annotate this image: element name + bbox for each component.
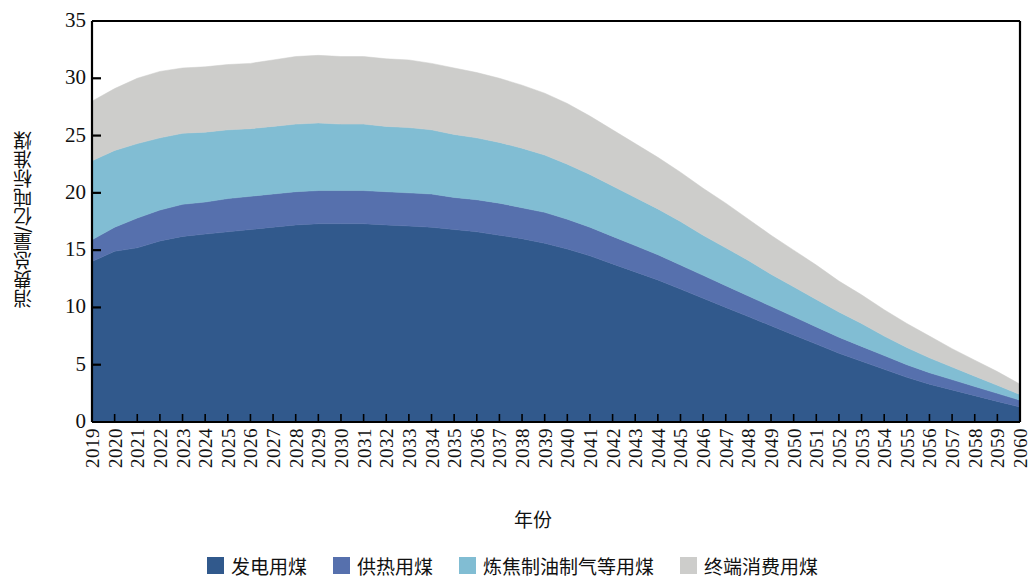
legend-label: 供热用煤 xyxy=(357,552,433,579)
x-axis-tick-label: 2022 xyxy=(151,428,170,468)
x-axis-tick-label: 2043 xyxy=(626,428,645,468)
x-axis-tick-label: 2053 xyxy=(853,428,872,468)
x-axis-tick-label: 2050 xyxy=(785,428,804,468)
x-axis-tick-label: 2023 xyxy=(174,428,193,468)
legend-swatch-icon xyxy=(333,557,350,574)
x-axis-tick-label: 2038 xyxy=(513,428,532,468)
legend: 发电用煤供热用煤炼焦制油制气等用煤终端消费用煤 xyxy=(0,552,1025,579)
x-axis-tick-label: 2027 xyxy=(264,428,283,468)
x-axis-tick-label: 2019 xyxy=(83,428,102,468)
x-axis-tick-label: 2057 xyxy=(943,428,962,468)
x-axis-tick-label: 2056 xyxy=(920,428,939,468)
legend-item[interactable]: 炼焦制油制气等用煤 xyxy=(459,552,654,579)
x-axis-tick-label: 2051 xyxy=(807,428,826,468)
x-axis-tick-label: 2058 xyxy=(966,428,985,468)
x-axis-tick-label: 2052 xyxy=(830,428,849,468)
x-axis-title-text: 年份 xyxy=(514,505,552,532)
legend-label: 终端消费用煤 xyxy=(704,552,818,579)
x-axis-tick-label: 2024 xyxy=(196,428,215,468)
legend-item[interactable]: 终端消费用煤 xyxy=(680,552,818,579)
x-axis-tick-label: 2044 xyxy=(649,428,668,468)
x-axis-tick-label: 2046 xyxy=(694,428,713,468)
x-axis-tick-label: 2060 xyxy=(1011,428,1030,468)
legend-item[interactable]: 发电用煤 xyxy=(207,552,307,579)
x-axis-tick-label: 2055 xyxy=(898,428,917,468)
legend-label: 炼焦制油制气等用煤 xyxy=(483,552,654,579)
legend-item[interactable]: 供热用煤 xyxy=(333,552,433,579)
x-axis-tick-label: 2049 xyxy=(762,428,781,468)
x-axis-tick-label: 2048 xyxy=(739,428,758,468)
x-axis-tick-label: 2030 xyxy=(332,428,351,468)
x-axis-tick-label: 2021 xyxy=(128,428,147,468)
x-axis-tick-label: 2059 xyxy=(988,428,1007,468)
x-axis-tick-label: 2037 xyxy=(490,428,509,468)
x-axis-tick-label: 2033 xyxy=(400,428,419,468)
x-axis-tick-label: 2045 xyxy=(671,428,690,468)
legend-swatch-icon xyxy=(207,557,224,574)
legend-label: 发电用煤 xyxy=(231,552,307,579)
x-axis-tick-label: 2026 xyxy=(241,428,260,468)
x-axis-tick-labels: 2019202020212022202320242025202620272028… xyxy=(0,428,1025,508)
legend-swatch-icon xyxy=(459,557,476,574)
x-axis-tick-label: 2040 xyxy=(558,428,577,468)
x-axis-tick-label: 2035 xyxy=(445,428,464,468)
x-axis-tick-label: 2036 xyxy=(468,428,487,468)
x-axis-tick-label: 2041 xyxy=(581,428,600,468)
legend-swatch-icon xyxy=(680,557,697,574)
x-axis-tick-label: 2032 xyxy=(377,428,396,468)
x-axis-tick-label: 2054 xyxy=(875,428,894,468)
x-axis-tick-label: 2034 xyxy=(423,428,442,468)
x-axis-tick-label: 2039 xyxy=(536,428,555,468)
x-axis-title: 年份 xyxy=(0,505,1025,532)
x-axis-tick-label: 2031 xyxy=(355,428,374,468)
x-axis-tick-label: 2029 xyxy=(309,428,328,468)
x-axis-tick-label: 2020 xyxy=(106,428,125,468)
x-axis-tick-label: 2042 xyxy=(604,428,623,468)
x-axis-tick-label: 2028 xyxy=(287,428,306,468)
x-axis-tick-label: 2047 xyxy=(717,428,736,468)
x-axis-tick-label: 2025 xyxy=(219,428,238,468)
